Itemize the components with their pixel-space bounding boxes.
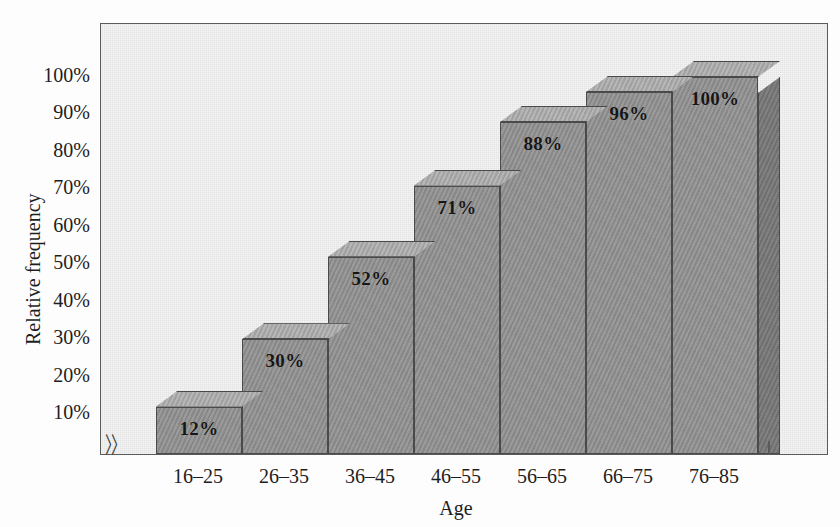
y-axis-tick-label: 20% (18, 364, 90, 387)
x-axis-tick-label: 16–25 (155, 465, 241, 488)
y-axis-tick-label: 10% (18, 401, 90, 424)
bar-value-label: 52% (328, 268, 414, 290)
bar-value-label: 30% (242, 350, 328, 372)
x-axis-tick-label: 56–65 (499, 465, 585, 488)
bar-front-face (414, 186, 500, 454)
plot-area: 100%96%88%71%52%30%12% (100, 23, 828, 455)
y-axis-tick-label: 100% (18, 64, 90, 87)
x-axis-title: Age (155, 497, 757, 520)
x-axis-tick-label: 26–35 (241, 465, 327, 488)
y-axis-tick-label: 30% (18, 326, 90, 349)
bar[interactable] (500, 106, 586, 454)
y-axis-tick-label: 90% (18, 101, 90, 124)
y-axis-tick-label: 70% (18, 176, 90, 199)
y-axis-tick-label: 40% (18, 289, 90, 312)
axis-break-symbol: 〉〉 (105, 428, 124, 460)
y-axis-tick-label: 60% (18, 214, 90, 237)
bar-side-face (758, 77, 780, 454)
bar-top-face (672, 61, 780, 77)
x-axis-tick (768, 441, 770, 455)
y-axis-tick-label: 80% (18, 139, 90, 162)
chart-canvas: Relative frequency 10%20%30%40%50%60%70%… (0, 0, 840, 527)
bar-front-face (586, 92, 672, 454)
y-axis-tick-label: 50% (18, 251, 90, 274)
x-axis-tick-label: 46–55 (413, 465, 499, 488)
x-axis-tick-label: 76–85 (671, 465, 757, 488)
bar-value-label: 71% (414, 197, 500, 219)
bar-value-label: 12% (156, 418, 242, 440)
x-axis-tick-label: 36–45 (327, 465, 413, 488)
bar[interactable] (586, 76, 672, 454)
x-axis-tick-label: 66–75 (585, 465, 671, 488)
bar[interactable] (242, 323, 328, 454)
bar-front-face (672, 77, 758, 454)
bar-value-label: 100% (672, 88, 758, 110)
bar[interactable] (672, 61, 758, 454)
bar-value-label: 88% (500, 133, 586, 155)
